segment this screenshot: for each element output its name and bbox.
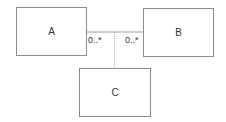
class-label-a: A xyxy=(48,26,55,37)
multiplicity-a: 0..* xyxy=(88,35,102,45)
class-box-b[interactable]: B xyxy=(143,8,214,57)
multiplicity-b: 0..* xyxy=(125,35,139,45)
class-label-c: C xyxy=(111,87,118,98)
class-box-c[interactable]: C xyxy=(79,68,151,117)
class-label-b: B xyxy=(175,27,182,38)
class-box-a[interactable]: A xyxy=(16,7,87,56)
